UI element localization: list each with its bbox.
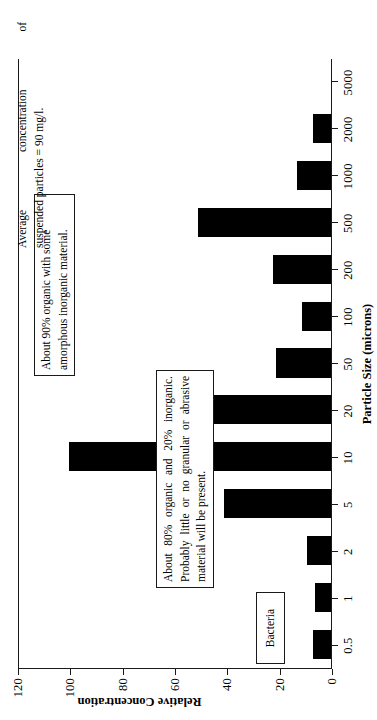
category-axis-tick-label: 10 — [341, 451, 356, 464]
bar — [276, 348, 331, 377]
category-axis-tick-label: 1000 — [341, 163, 356, 189]
category-axis-tick — [332, 645, 338, 646]
category-axis-tick — [332, 269, 338, 270]
category-axis-tick-label: 100 — [341, 307, 356, 326]
annotation-average-concentration: Average concentration of suspended parti… — [14, 22, 49, 248]
bar — [273, 255, 331, 284]
category-axis-tick-label: 5 — [341, 502, 356, 508]
annotation-bacteria: Bacteria — [256, 592, 285, 664]
bar — [315, 583, 331, 612]
category-axis-tick-label: 50 — [341, 358, 356, 371]
value-axis-tick-label: 20 — [272, 678, 287, 691]
annotation-organic-line-1: About 80% organic and 20% inorganic. — [160, 376, 177, 582]
category-axis-tick-label: 0.5 — [341, 637, 356, 653]
bar — [297, 161, 331, 190]
category-axis-tick — [332, 457, 338, 458]
category-axis-tick — [332, 598, 338, 599]
annotation-organic: About 80% organic and 20% inorganic. Pro… — [156, 370, 214, 588]
value-axis-tick — [332, 669, 333, 675]
category-axis-tick-label: 2000 — [341, 116, 356, 142]
bar — [313, 630, 331, 659]
category-axis-tick — [332, 222, 338, 223]
bar — [224, 489, 331, 518]
value-axis-tick — [175, 669, 176, 675]
particle-size-distribution-chart: 020406080100120 Relative Concentration P… — [0, 0, 377, 720]
category-axis-tick — [332, 551, 338, 552]
bar — [313, 114, 331, 143]
category-axis-tick — [332, 363, 338, 364]
category-axis-tick-label: 5000 — [341, 70, 356, 96]
value-axis-tick-label: 120 — [11, 678, 26, 697]
value-axis-tick-label: 60 — [168, 678, 183, 691]
value-axis-tick — [280, 669, 281, 675]
value-axis-tick-label: 80 — [115, 678, 130, 691]
value-axis-tick — [18, 669, 19, 675]
category-axis-tick-label: 200 — [341, 260, 356, 279]
category-axis-tick-label: 500 — [341, 214, 356, 233]
category-axis-tick-label: 20 — [341, 404, 356, 417]
bar — [198, 208, 331, 237]
annotation-average-line-1: Average concentration of — [14, 22, 31, 248]
category-axis-tick-label: 1 — [341, 595, 356, 601]
category-axis-tick — [332, 316, 338, 317]
category-axis-tick — [332, 175, 338, 176]
category-axis: Particle Size (microns) 0.51251020501002… — [332, 59, 377, 669]
bar — [198, 395, 331, 424]
category-axis-title: Particle Size (microns) — [360, 59, 375, 669]
category-axis-tick — [332, 504, 338, 505]
bar — [307, 536, 331, 565]
value-axis-tick-label: 0 — [325, 678, 340, 684]
value-axis-tick-label: 40 — [220, 678, 235, 691]
value-axis-tick — [70, 669, 71, 675]
annotation-average-line-2: suspended particles = 90 mg/l. — [31, 22, 48, 248]
value-axis-tick — [227, 669, 228, 675]
bar — [302, 302, 331, 331]
category-axis-tick — [332, 81, 338, 82]
value-axis-title: Relative Concentration — [25, 694, 255, 709]
category-axis-tick — [332, 128, 338, 129]
annotation-organic-line-3: material will be present. — [193, 376, 210, 582]
annotation-inorganic-line-2: amorphous inorganic material. — [55, 200, 72, 370]
category-axis-tick-label: 2 — [341, 548, 356, 554]
annotation-organic-line-2: Probably little or no granular or abrasi… — [177, 376, 194, 582]
value-axis-tick — [123, 669, 124, 675]
annotation-bacteria-label: Bacteria — [262, 597, 279, 659]
category-axis-tick — [332, 410, 338, 411]
